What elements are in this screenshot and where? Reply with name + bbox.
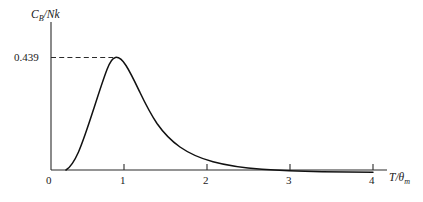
x-tick-label-1: 1 (120, 175, 126, 186)
bose-heat-capacity-figure: CB/Nk 0.439 0 1 2 3 4 T/θm (0, 0, 423, 202)
y-axis-title-main: C (31, 8, 39, 20)
y-axis-title-rest: /Nk (44, 8, 60, 20)
x-tick-label-2: 2 (203, 175, 209, 186)
x-axis-title: T/θm (389, 172, 410, 184)
x-axis-title-main: T/θ (389, 171, 404, 183)
x-tick-label-4: 4 (369, 175, 375, 186)
chart-plot-area (0, 0, 423, 202)
x-axis-ticks (124, 164, 373, 170)
heat-capacity-curve (66, 57, 373, 172)
y-axis-title: CB/Nk (31, 9, 60, 21)
y-axis-title-subscript: B (39, 14, 44, 23)
y-tick-label-peak: 0.439 (14, 52, 39, 63)
x-tick-label-0: 0 (46, 175, 52, 186)
x-axis-title-subscript: m (404, 177, 410, 186)
x-tick-label-3: 3 (286, 175, 292, 186)
